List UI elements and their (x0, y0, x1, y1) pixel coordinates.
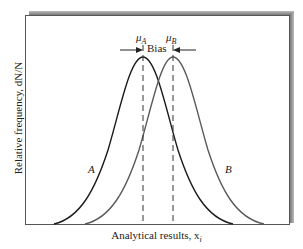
curve-b-label: B (225, 163, 232, 175)
arrow-right-head-icon (136, 47, 143, 53)
plot-svg (0, 0, 303, 249)
x-axis-label: Analytical results, xi (0, 229, 303, 244)
x-axis-label-sub: i (200, 235, 202, 244)
mu-a-sub: A (142, 37, 147, 46)
mu-b-label: μB (166, 31, 176, 46)
mu-a-label: μA (136, 31, 146, 46)
mu-b-sub: B (172, 37, 177, 46)
arrow-left-head-icon (173, 47, 180, 53)
y-axis-label: Relative frequency, dN/N (12, 48, 24, 188)
bias-label: Bias (147, 42, 167, 54)
curve-b (85, 57, 264, 224)
y-axis-label-text: Relative frequency, dN/N (12, 62, 24, 175)
x-axis-label-text: Analytical results, x (111, 229, 199, 241)
curve-a-label: A (88, 163, 95, 175)
